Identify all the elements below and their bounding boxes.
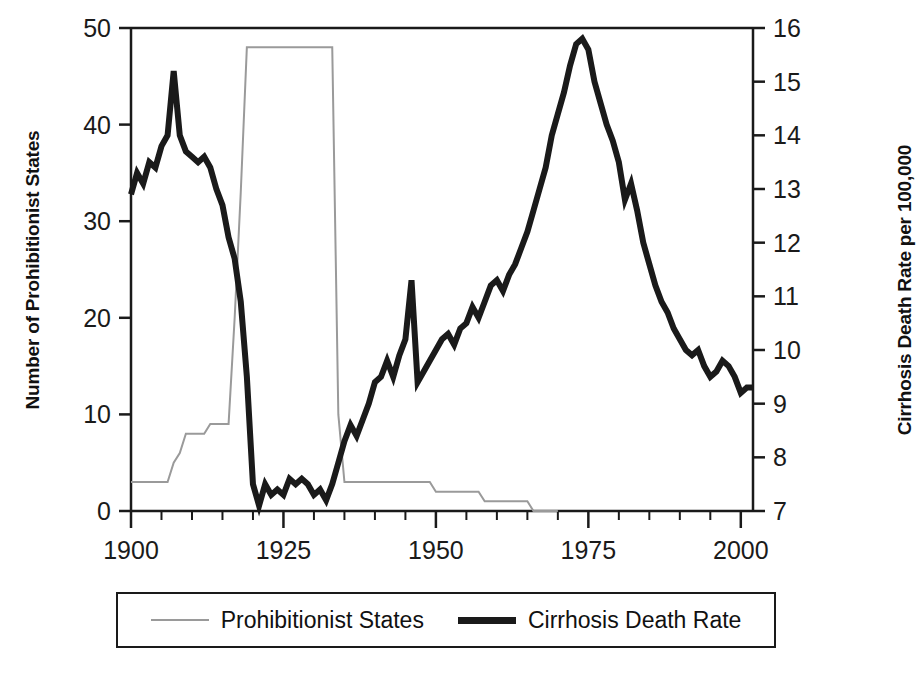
axes bbox=[131, 28, 753, 511]
y-axis-right-title: Cirrhosis Death Rate per 100,000 bbox=[888, 20, 922, 560]
chart-figure: Number of Prohibitionist States Cirrhosi… bbox=[0, 0, 923, 673]
series-line-cirrhosis-death-rate bbox=[131, 39, 753, 506]
y-axis-right-tick-label: 13 bbox=[773, 175, 801, 203]
x-axis-tick-label: 1900 bbox=[103, 536, 159, 564]
y-axis-right-tick-label: 14 bbox=[773, 121, 801, 149]
y-axis-right-tick-label: 10 bbox=[773, 336, 801, 364]
y-axis-right-tick-label: 12 bbox=[773, 229, 801, 257]
legend-swatch-line-icon bbox=[151, 619, 209, 621]
x-axis-tick-label: 2000 bbox=[713, 536, 769, 564]
legend-item-prohibitionist-states[interactable]: Prohibitionist States bbox=[151, 607, 424, 634]
chart-legend: Prohibitionist States Cirrhosis Death Ra… bbox=[116, 592, 776, 648]
plot-area: 0102030405078910111213141516190019251950… bbox=[0, 0, 923, 580]
y-axis-left-tick-label: 50 bbox=[83, 14, 111, 42]
y-axis-left-tick-label: 40 bbox=[83, 111, 111, 139]
legend-item-cirrhosis-death-rate[interactable]: Cirrhosis Death Rate bbox=[458, 607, 741, 634]
tick-marks bbox=[119, 28, 765, 528]
y-axis-left-tick-label: 10 bbox=[83, 400, 111, 428]
legend-label: Cirrhosis Death Rate bbox=[528, 607, 741, 634]
y-axis-left-tick-label: 20 bbox=[83, 304, 111, 332]
x-axis-tick-label: 1950 bbox=[408, 536, 464, 564]
y-axis-right-tick-label: 9 bbox=[773, 390, 787, 418]
y-axis-right-tick-label: 8 bbox=[773, 443, 787, 471]
legend-swatch-line-icon bbox=[458, 617, 516, 624]
y-axis-left-tick-label: 30 bbox=[83, 207, 111, 235]
data-series bbox=[131, 39, 753, 511]
legend-label: Prohibitionist States bbox=[221, 607, 424, 634]
x-axis-tick-label: 1975 bbox=[561, 536, 617, 564]
y-axis-right-tick-label: 7 bbox=[773, 497, 787, 525]
y-axis-left-title: Number of Prohibitionist States bbox=[16, 0, 50, 540]
tick-labels: 0102030405078910111213141516190019251950… bbox=[83, 14, 801, 564]
y-axis-left-tick-label: 0 bbox=[97, 497, 111, 525]
y-axis-right-tick-label: 15 bbox=[773, 68, 801, 96]
x-axis-tick-label: 1925 bbox=[256, 536, 312, 564]
y-axis-right-tick-label: 16 bbox=[773, 14, 801, 42]
y-axis-right-tick-label: 11 bbox=[773, 282, 799, 310]
